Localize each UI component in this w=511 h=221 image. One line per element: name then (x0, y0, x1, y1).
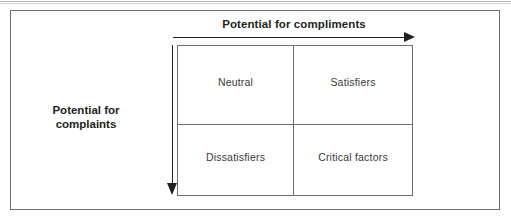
quadrant-bottom-right-label: Critical factors (318, 151, 388, 163)
figure-root: Potential for compliments Potential for … (0, 0, 511, 221)
quadrant-top-right: Satisfiers (294, 46, 412, 125)
quadrant-top-right-label: Satisfiers (330, 76, 375, 88)
quadrant-top-left: Neutral (178, 46, 294, 125)
vertical-axis-label-line2: complaints (18, 117, 154, 131)
page-top-rule-secondary (0, 3, 511, 4)
horizontal-axis-label: Potential for compliments (173, 18, 415, 30)
arrow-down-icon (167, 183, 177, 195)
quadrant-bottom-right: Critical factors (294, 125, 412, 195)
quadrant-top-left-label: Neutral (218, 76, 253, 88)
page-top-rule (0, 1, 511, 2)
vertical-axis-label-line1: Potential for (18, 103, 154, 117)
vertical-axis-label: Potential for complaints (18, 103, 154, 131)
quadrant-matrix: Neutral Satisfiers Dissatisfiers Critica… (177, 45, 413, 196)
arrow-right-icon-shaft (173, 37, 406, 38)
quadrant-bottom-left-label: Dissatisfiers (206, 151, 265, 163)
arrow-right-icon (404, 32, 415, 42)
arrow-down-icon-shaft (172, 45, 173, 183)
quadrant-bottom-left: Dissatisfiers (178, 125, 294, 195)
